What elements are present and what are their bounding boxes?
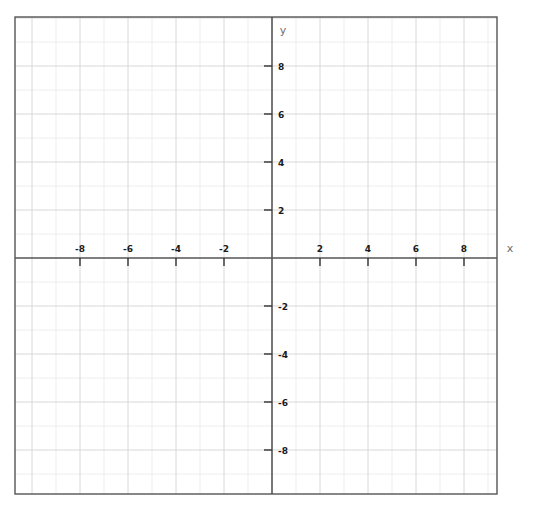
x-tick-label: -2 (219, 244, 229, 254)
y-tick-label: 8 (278, 62, 284, 72)
y-tick-label: -8 (278, 446, 288, 456)
coordinate-grid-svg: -8-6-4-22468-8-6-4-22468 x y (0, 0, 538, 507)
x-tick-label: -4 (171, 244, 181, 254)
x-tick-label: 2 (317, 244, 323, 254)
y-tick-label: -4 (278, 350, 288, 360)
y-tick-label: 2 (278, 206, 284, 216)
x-tick-label: -6 (123, 244, 133, 254)
coordinate-plane-figure: -8-6-4-22468-8-6-4-22468 x y (0, 0, 538, 507)
y-tick-label: 6 (278, 110, 284, 120)
y-tick-label: -2 (278, 302, 288, 312)
x-tick-label: 4 (365, 244, 371, 254)
x-tick-label: -8 (75, 244, 85, 254)
y-tick-label: 4 (278, 158, 284, 168)
y-tick-label: -6 (278, 398, 288, 408)
y-axis-label: y (280, 24, 287, 37)
x-tick-label: 8 (461, 244, 467, 254)
x-axis-label: x (507, 242, 514, 255)
x-tick-label: 6 (413, 244, 419, 254)
